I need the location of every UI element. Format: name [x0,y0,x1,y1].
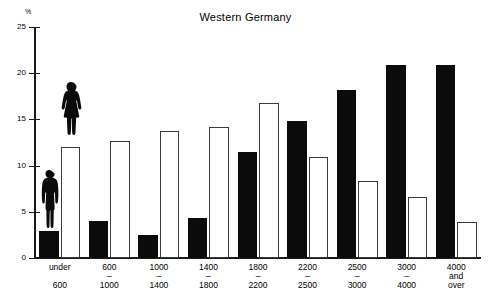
bar-men-3 [188,218,208,258]
x-axis-labels: under 600600–10001000–14001400–18001800–… [35,262,481,301]
bar-men-2 [138,235,158,258]
bar-women-8 [457,222,477,258]
x-axis-label-0: under 600 [35,262,85,291]
x-axis-label-6: 2500–3000 [332,262,382,291]
y-tick-label-10: 10 [6,161,26,170]
y-tick-label-0: 0 [6,253,26,262]
x-axis-label-3: 1400–1800 [184,262,234,291]
bar-women-2 [160,131,180,259]
y-tick-label-15: 15 [6,114,26,123]
bar-men-1 [89,221,109,258]
bar-men-5 [287,121,307,258]
bar-men-8 [436,65,456,258]
chart-root: Western Germany % 0510152025 under 60060… [0,0,491,301]
y-axis-unit-label: % [25,8,31,15]
x-axis-label-2: 1000–1400 [134,262,184,291]
female-silhouette-icon [59,81,83,147]
male-silhouette-icon [38,169,60,231]
y-tick-0 [29,258,40,259]
x-axis-label-4: 1800–2200 [233,262,283,291]
plot-area [35,27,481,258]
bar-men-0 [39,231,59,258]
y-tick-label-5: 5 [6,207,26,216]
bar-women-7 [408,197,428,258]
x-axis-label-8: 4000andover [431,262,481,291]
bar-men-6 [337,90,357,258]
bar-women-0 [61,147,81,258]
bar-women-1 [110,141,130,258]
x-axis-label-7: 3000–4000 [382,262,432,291]
y-tick-label-25: 25 [6,22,26,31]
bar-women-3 [209,127,229,258]
y-tick-label-20: 20 [6,68,26,77]
bar-men-4 [238,152,258,258]
bar-women-6 [358,181,378,258]
x-axis-label-5: 2200–2500 [283,262,333,291]
bar-women-4 [259,103,279,258]
bar-men-7 [386,65,406,258]
bar-women-5 [309,157,329,258]
x-axis-label-1: 600–1000 [85,262,135,291]
chart-title: Western Germany [0,11,491,23]
